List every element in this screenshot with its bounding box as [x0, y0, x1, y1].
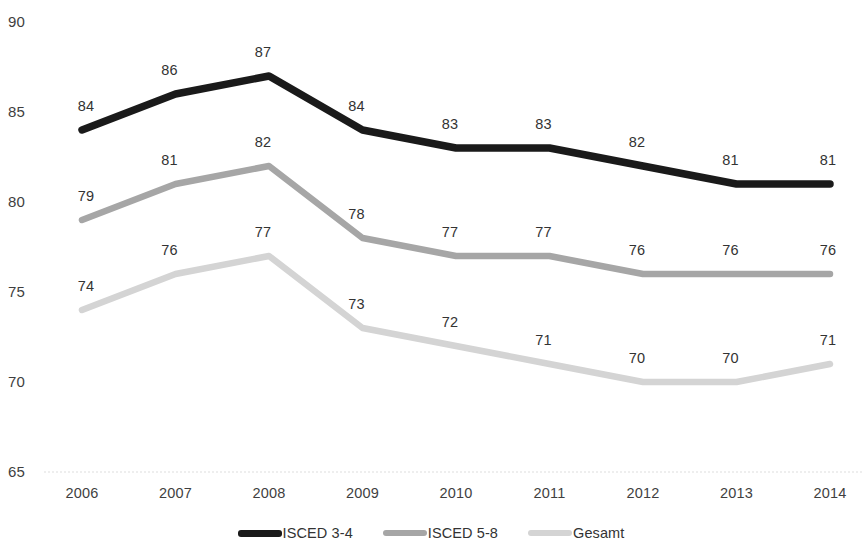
data-label: 76	[711, 242, 751, 258]
data-label: 86	[150, 62, 190, 78]
data-label: 79	[66, 188, 106, 204]
data-label: 72	[430, 314, 470, 330]
x-tick-label-2007: 2007	[136, 485, 216, 501]
legend-item-gesamt[interactable]: Gesamt	[528, 525, 624, 541]
data-label: 71	[808, 332, 848, 348]
legend-label: ISCED 3-4	[283, 525, 353, 541]
legend-swatch-icon	[238, 530, 282, 537]
data-label: 70	[617, 350, 657, 366]
x-tick-label-2013: 2013	[697, 485, 777, 501]
data-label: 73	[337, 296, 377, 312]
x-tick-label-2012: 2012	[603, 485, 683, 501]
x-tick-label-2009: 2009	[323, 485, 403, 501]
data-label: 77	[524, 224, 564, 240]
data-label: 82	[243, 134, 283, 150]
data-label: 76	[150, 242, 190, 258]
legend-swatch-icon	[528, 530, 572, 536]
data-label: 81	[711, 152, 751, 168]
x-tick-label-2011: 2011	[510, 485, 590, 501]
x-tick-label-2010: 2010	[416, 485, 496, 501]
data-label: 81	[808, 152, 848, 168]
x-tick-label-2006: 2006	[42, 485, 122, 501]
data-label: 87	[243, 44, 283, 60]
data-label: 77	[430, 224, 470, 240]
data-label: 83	[524, 116, 564, 132]
legend-item-isced-3-4[interactable]: ISCED 3-4	[238, 525, 353, 541]
chart-legend: ISCED 3-4ISCED 5-8Gesamt	[0, 519, 862, 547]
plot-area	[0, 0, 862, 547]
legend-label: ISCED 5-8	[428, 525, 498, 541]
line-chart: 908580757065 848687848383828181798182787…	[0, 0, 862, 547]
data-label: 76	[808, 242, 848, 258]
data-label: 74	[66, 278, 106, 294]
data-label: 70	[711, 350, 751, 366]
data-label: 82	[617, 134, 657, 150]
data-label: 71	[524, 332, 564, 348]
x-tick-label-2014: 2014	[790, 485, 862, 501]
legend-item-isced-5-8[interactable]: ISCED 5-8	[383, 525, 498, 541]
x-tick-label-2008: 2008	[229, 485, 309, 501]
data-label: 78	[337, 206, 377, 222]
legend-swatch-icon	[383, 530, 427, 536]
legend-label: Gesamt	[573, 525, 624, 541]
data-label: 84	[66, 98, 106, 114]
data-label: 83	[430, 116, 470, 132]
data-label: 77	[243, 224, 283, 240]
data-label: 76	[617, 242, 657, 258]
data-label: 84	[337, 98, 377, 114]
data-label: 81	[150, 152, 190, 168]
